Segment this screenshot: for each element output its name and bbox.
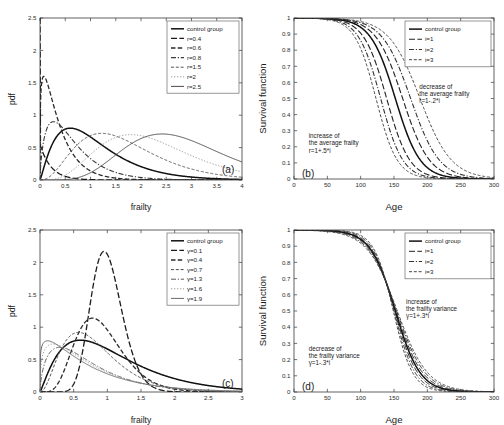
x-tick-label: 3 [190, 182, 194, 189]
x-tick-label: 150 [389, 394, 400, 401]
x-tick-label: 2.5 [162, 182, 171, 189]
y-tick-label: 0 [33, 176, 37, 183]
legend-label[interactable]: i=1 [425, 35, 434, 42]
chart-panel-d: 05010015020025030000.10.20.30.40.50.60.7… [252, 212, 504, 425]
annotation-line: decrease of [309, 345, 342, 352]
x-tick-label: 1 [89, 182, 93, 189]
annotation-line: γ=1-.3*i [309, 359, 331, 367]
y-tick-label: 1.5 [28, 291, 37, 298]
y-tick-label: 0 [287, 175, 291, 182]
annotation-line: r=1-.2*i [419, 97, 439, 104]
annotation-line: increase of [406, 298, 437, 305]
x-tick-label: 1.5 [111, 182, 120, 189]
y-axis-title: pdf [7, 92, 17, 105]
x-tick-label: 0.5 [61, 182, 70, 189]
y-tick-label: 1 [33, 323, 37, 330]
legend-label[interactable]: control group [425, 237, 461, 244]
x-tick-label: 100 [356, 394, 367, 401]
x-tick-label: 0.5 [69, 394, 78, 401]
x-tick-label: 2.5 [204, 394, 213, 401]
y-tick-label: 0.8 [282, 46, 291, 53]
y-tick-label: 0.4 [282, 323, 291, 330]
legend-label[interactable]: r=2 [187, 73, 197, 80]
panel-tag-b: (b) [302, 168, 314, 179]
x-tick-label: 0 [292, 394, 296, 401]
y-tick-label: 0.1 [282, 159, 291, 166]
chart-panel-a: 00.511.522.533.5400.511.522.5frailtypdf(… [0, 0, 252, 212]
legend-d[interactable]: control groupi=1i=2i=3 [405, 233, 491, 279]
y-tick-label: 0.5 [28, 356, 37, 363]
legend-label[interactable]: r=0.4 [187, 35, 202, 42]
y-tick-label: 1 [33, 111, 37, 118]
x-axis-title: Age [385, 414, 402, 425]
x-tick-label: 50 [324, 394, 331, 401]
y-tick-label: 2.5 [28, 14, 37, 21]
y-tick-label: 0.8 [282, 259, 291, 266]
legend-label[interactable]: r=0.6 [187, 44, 202, 51]
x-axis-title: frailty [131, 202, 152, 212]
x-axis-title: Age [385, 201, 402, 212]
panel-tag-d: (d) [302, 381, 314, 392]
legend-label[interactable]: γ=1.6 [187, 285, 203, 292]
x-tick-label: 3 [240, 394, 244, 401]
chart-svg-c: 00.511.522.5300.511.522.5frailtypdf(c)co… [0, 212, 252, 425]
y-axis-title: pdf [7, 304, 17, 317]
y-tick-label: 2.5 [28, 226, 37, 233]
y-tick-label: 0.9 [282, 242, 291, 249]
legend-label[interactable]: i=1 [425, 247, 434, 254]
x-tick-label: 250 [456, 394, 467, 401]
y-axis-title: Survival function [257, 63, 268, 133]
legend-label[interactable]: i=3 [425, 56, 434, 63]
legend-label[interactable]: γ=1.9 [187, 295, 203, 302]
legend-label[interactable]: γ=1.3 [187, 275, 203, 282]
x-tick-label: 100 [356, 181, 367, 188]
y-tick-label: 0.6 [282, 291, 291, 298]
y-tick-label: 0.5 [28, 144, 37, 151]
x-tick-label: 300 [489, 181, 500, 188]
x-tick-label: 2 [173, 394, 177, 401]
legend-label[interactable]: γ=0.7 [187, 266, 203, 273]
y-axis-title: Survival function [257, 276, 268, 346]
legend-label[interactable]: control group [425, 25, 461, 32]
legend-label[interactable]: control group [187, 237, 223, 244]
x-tick-label: 3.5 [212, 182, 221, 189]
legend-label[interactable]: control group [187, 25, 223, 32]
y-tick-label: 0.3 [282, 127, 291, 134]
x-tick-label: 0 [292, 181, 296, 188]
legend-label[interactable]: γ=0.1 [187, 247, 203, 254]
y-tick-label: 1 [287, 14, 291, 21]
legend-label[interactable]: γ=0.4 [187, 256, 203, 263]
x-tick-label: 250 [456, 181, 467, 188]
y-tick-label: 0.4 [282, 111, 291, 118]
y-tick-label: 2 [33, 259, 37, 266]
y-tick-label: 0.2 [282, 356, 291, 363]
legend-b[interactable]: control groupi=1i=2i=3 [405, 21, 491, 67]
x-tick-label: 50 [324, 181, 331, 188]
x-tick-label: 200 [422, 181, 433, 188]
legend-label[interactable]: i=2 [425, 258, 434, 265]
y-tick-label: 1 [287, 226, 291, 233]
legend-c[interactable]: control groupγ=0.1γ=0.4γ=0.7γ=1.3γ=1.6γ=… [167, 233, 239, 305]
y-tick-label: 0.7 [282, 275, 291, 282]
legend-label[interactable]: r=2.5 [187, 83, 202, 90]
annotation-line: decrease of [419, 83, 452, 90]
y-tick-label: 0.5 [282, 95, 291, 102]
x-tick-label: 0 [38, 182, 42, 189]
legend-label[interactable]: i=3 [425, 268, 434, 275]
x-tick-label: 2 [139, 182, 143, 189]
legend-label[interactable]: i=2 [425, 46, 434, 53]
figure-container: 00.511.522.533.5400.511.522.5frailtypdf(… [0, 0, 504, 425]
x-tick-label: 150 [389, 181, 400, 188]
y-tick-label: 0.5 [282, 307, 291, 314]
y-tick-label: 0.2 [282, 143, 291, 150]
legend-label[interactable]: r=0.8 [187, 54, 202, 61]
legend-label[interactable]: r=1.5 [187, 63, 202, 70]
x-axis-title: frailty [131, 415, 152, 425]
y-tick-label: 0.1 [282, 372, 291, 379]
y-tick-label: 0.3 [282, 340, 291, 347]
y-tick-label: 0.6 [282, 79, 291, 86]
y-tick-label: 0 [33, 388, 37, 395]
annotation-line: increase of [309, 132, 340, 139]
legend-a[interactable]: control groupr=0.4r=0.6r=0.8r=1.5r=2r=2.… [167, 21, 239, 93]
x-tick-label: 300 [489, 394, 500, 401]
